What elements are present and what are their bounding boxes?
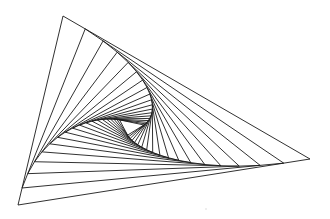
triangle-0 — [18, 16, 310, 205]
stray-dot — [205, 208, 207, 210]
nested-triangles — [18, 16, 310, 205]
whirl-triangle-drawing — [0, 0, 330, 219]
figure — [0, 0, 330, 219]
triangle-6 — [58, 80, 191, 163]
